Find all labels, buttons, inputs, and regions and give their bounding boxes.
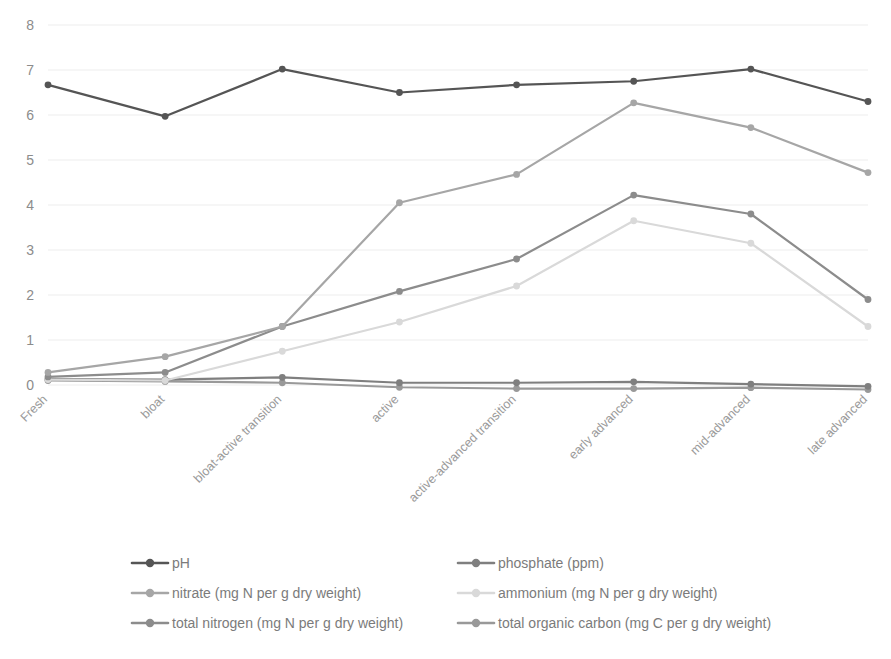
- x-axis-tick-label: active: [369, 392, 402, 425]
- data-point: [865, 98, 872, 105]
- legend-label: pH: [172, 555, 190, 571]
- x-axis-tick-label: early advanced: [566, 392, 636, 462]
- legend-item[interactable]: nitrate (mg N per g dry weight): [132, 585, 361, 601]
- data-point: [162, 369, 169, 376]
- x-axis-tick-label: bloat-active transition: [191, 392, 284, 485]
- legend-marker-dot: [472, 619, 480, 627]
- legend-label: total organic carbon (mg C per g dry wei…: [498, 615, 771, 631]
- legend-label: total nitrogen (mg N per g dry weight): [172, 615, 403, 631]
- legend-item[interactable]: total organic carbon (mg C per g dry wei…: [458, 615, 771, 631]
- data-point: [747, 240, 754, 247]
- data-point: [630, 378, 637, 385]
- data-point: [747, 66, 754, 73]
- legend-marker-dot: [146, 559, 154, 567]
- data-point: [45, 369, 52, 376]
- legend-label: nitrate (mg N per g dry weight): [172, 585, 361, 601]
- data-point: [513, 385, 520, 392]
- legend-marker-dot: [472, 559, 480, 567]
- data-point: [396, 89, 403, 96]
- data-point: [865, 296, 872, 303]
- data-point: [747, 381, 754, 388]
- y-axis-tick-label: 0: [26, 377, 34, 393]
- legend-item[interactable]: total nitrogen (mg N per g dry weight): [132, 615, 403, 631]
- data-point: [279, 323, 286, 330]
- data-point: [747, 124, 754, 131]
- series-line: [48, 221, 868, 381]
- data-point: [513, 283, 520, 290]
- y-axis-tick-label: 6: [26, 107, 34, 123]
- x-axis-tick-label: active-advanced transition: [406, 392, 519, 505]
- y-axis-tick-label: 2: [26, 287, 34, 303]
- data-point: [45, 81, 52, 88]
- x-axis-tick-labels: Freshbloatbloat-active transitionactivea…: [18, 392, 871, 505]
- legend-marker-dot: [146, 619, 154, 627]
- data-point: [865, 383, 872, 390]
- data-point: [396, 288, 403, 295]
- data-point: [630, 385, 637, 392]
- y-axis-tick-label: 8: [26, 17, 34, 33]
- data-point: [513, 256, 520, 263]
- legend-item[interactable]: pH: [132, 555, 190, 571]
- data-point: [747, 211, 754, 218]
- x-axis-tick-label: bloat: [138, 392, 167, 421]
- y-axis-tick-label: 5: [26, 152, 34, 168]
- x-axis-tick-label: Fresh: [18, 392, 51, 425]
- data-point: [162, 113, 169, 120]
- line-chart: 012345678 Freshbloatbloat-active transit…: [0, 0, 891, 659]
- data-point: [279, 66, 286, 73]
- legend-marker-dot: [472, 589, 480, 597]
- y-axis-tick-label: 4: [26, 197, 34, 213]
- data-point: [396, 379, 403, 386]
- series-line: [48, 103, 868, 373]
- legend-label: phosphate (ppm): [498, 555, 604, 571]
- y-axis-tick-label: 1: [26, 332, 34, 348]
- x-axis-tick-label: mid-advanced: [688, 392, 753, 457]
- data-point: [865, 323, 872, 330]
- legend-item[interactable]: phosphate (ppm): [458, 555, 604, 571]
- data-point: [279, 348, 286, 355]
- data-point: [513, 379, 520, 386]
- legend-marker-dot: [146, 589, 154, 597]
- data-point: [865, 169, 872, 176]
- y-axis-tick-label: 7: [26, 62, 34, 78]
- data-point: [630, 99, 637, 106]
- y-axis-tick-label: 3: [26, 242, 34, 258]
- chart-canvas: 012345678 Freshbloatbloat-active transit…: [0, 0, 891, 659]
- series-total: [45, 192, 872, 381]
- series-nitrate: [45, 99, 872, 375]
- data-point: [630, 192, 637, 199]
- data-point: [396, 199, 403, 206]
- chart-legend: pHphosphate (ppm)nitrate (mg N per g dry…: [132, 555, 771, 631]
- data-point: [279, 374, 286, 381]
- data-point: [630, 217, 637, 224]
- legend-label: ammonium (mg N per g dry weight): [498, 585, 717, 601]
- y-axis-tick-labels: 012345678: [26, 17, 34, 393]
- data-point: [396, 319, 403, 326]
- data-point: [162, 353, 169, 360]
- data-point: [513, 81, 520, 88]
- series-line: [48, 69, 868, 116]
- data-point: [630, 78, 637, 85]
- x-axis-tick-label: late advanced: [805, 392, 870, 457]
- series-ammonium: [45, 217, 872, 384]
- gridlines: [48, 25, 868, 385]
- legend-item[interactable]: ammonium (mg N per g dry weight): [458, 585, 717, 601]
- data-point: [513, 171, 520, 178]
- series-line: [48, 195, 868, 377]
- series-ph: [45, 66, 872, 120]
- data-point: [162, 377, 169, 384]
